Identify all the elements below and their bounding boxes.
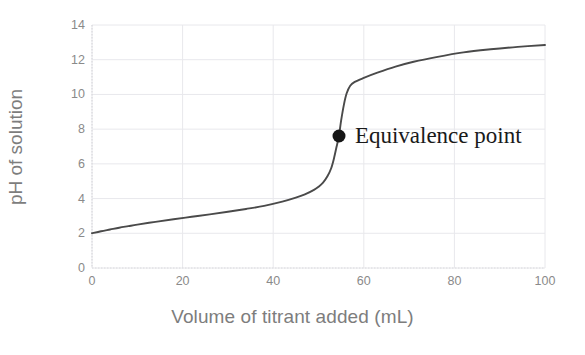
x-tick-label-40: 40 [266, 274, 280, 288]
equivalence-point-label: Equivalence point [355, 123, 522, 149]
y-tick-label-4: 4 [78, 192, 85, 206]
y-tick-label-8: 8 [78, 122, 85, 136]
x-tick-label-0: 0 [89, 274, 96, 288]
x-tick-label-20: 20 [176, 274, 190, 288]
plot-area: 02468101214 020406080100 Equivalence poi… [92, 25, 545, 268]
x-tick-label-80: 80 [447, 274, 461, 288]
y-tick-label-6: 6 [78, 157, 85, 171]
y-tick-label-14: 14 [71, 18, 85, 32]
titration-curve-figure: 02468101214 020406080100 Equivalence poi… [0, 0, 585, 355]
y-tick-label-0: 0 [78, 261, 85, 275]
x-tick-label-100: 100 [535, 274, 556, 288]
x-axis-title: Volume of titrant added (mL) [0, 306, 585, 328]
y-axis-title: pH of solution [5, 89, 27, 205]
y-tick-label-10: 10 [71, 87, 85, 101]
x-tick-label-60: 60 [357, 274, 371, 288]
y-tick-label-12: 12 [71, 53, 85, 67]
equivalence-point-marker [332, 130, 345, 143]
y-tick-label-2: 2 [78, 226, 85, 240]
